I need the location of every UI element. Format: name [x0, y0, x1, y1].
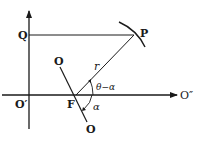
label-o-top: O [54, 55, 64, 68]
label-p: P [140, 27, 148, 40]
label-o-double-prime: O″ [180, 89, 193, 102]
label-r: r [94, 60, 100, 73]
label-q: Q [18, 29, 28, 42]
angle-arc-alpha [84, 95, 92, 109]
label-o-prime: O′ [15, 98, 28, 111]
label-theta-minus-alpha: θ−α [96, 82, 115, 92]
label-f: F [67, 98, 75, 111]
diagram-canvas: Q P O O O′ O″ F r θ−α α [0, 0, 198, 141]
label-o-bottom: O [86, 123, 96, 136]
label-alpha: α [93, 101, 100, 112]
